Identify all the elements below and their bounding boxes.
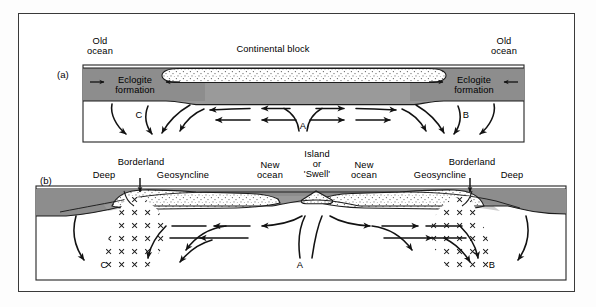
label-deep-right: Deep xyxy=(492,170,532,180)
label-continental-block: Continental block xyxy=(225,44,321,54)
label-old-ocean-left: Old ocean xyxy=(78,36,122,56)
label-eclogite-formation-left: Eclogite formation xyxy=(107,75,163,95)
label-cell-b-a: B xyxy=(458,110,474,120)
panel-a-tag: (a) xyxy=(57,69,69,80)
label-cell-c-a: C xyxy=(131,110,147,120)
label-cell-c-b: C xyxy=(96,260,112,270)
continental-block-a xyxy=(162,69,446,83)
label-geosyncline-left: Geosyncline xyxy=(146,170,220,180)
label-island-or-swell: Island or 'Swell' xyxy=(295,149,339,179)
label-new-ocean-right: New ocean xyxy=(342,160,386,180)
label-borderland-left: Borderland xyxy=(105,157,177,167)
panel-b-tag: (b) xyxy=(40,175,52,186)
label-cell-a-a: A xyxy=(295,121,311,131)
label-borderland-right: Borderland xyxy=(436,157,508,167)
label-deep-left: Deep xyxy=(84,170,124,180)
label-geosyncline-right: Geosyncline xyxy=(403,170,477,180)
label-eclogite-formation-right: Eclogite formation xyxy=(446,75,502,95)
label-old-ocean-right: Old ocean xyxy=(482,36,526,56)
label-cell-a-b: A xyxy=(292,260,308,270)
label-new-ocean-left: New ocean xyxy=(248,160,292,180)
figure-root: (a) (b) Old ocean Continental block Old … xyxy=(0,0,596,307)
label-cell-b-b: B xyxy=(484,260,500,270)
